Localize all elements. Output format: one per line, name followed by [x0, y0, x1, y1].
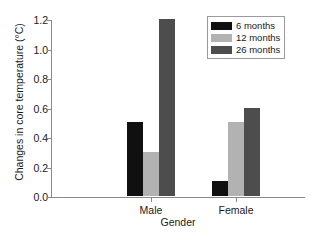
bar — [127, 122, 143, 196]
y-axis-tick-mark — [47, 138, 51, 139]
legend: 6 months12 months26 months — [207, 16, 285, 59]
legend-item: 6 months — [211, 20, 280, 31]
legend-swatch-icon — [211, 46, 232, 54]
bar — [143, 152, 159, 196]
y-axis-tick-labels: 0.00.20.40.60.81.01.2 — [20, 0, 48, 243]
legend-item: 26 months — [211, 44, 280, 55]
legend-item-label: 26 months — [236, 45, 280, 55]
y-axis-tick-mark — [47, 109, 51, 110]
bar — [159, 19, 175, 196]
y-axis-tick-label: 1.2 — [22, 15, 48, 25]
x-axis-tick-mark — [236, 198, 237, 202]
y-axis-tick-mark — [47, 20, 51, 21]
bar — [228, 122, 244, 196]
x-axis-category-label: Male — [116, 204, 186, 216]
bar — [212, 181, 228, 196]
y-axis-tick-label: 0.8 — [22, 74, 48, 84]
y-axis-tick-label: 1.0 — [22, 45, 48, 55]
y-axis-tick-label: 0.4 — [22, 133, 48, 143]
x-axis-category-label: Female — [201, 204, 271, 216]
y-axis-tick-mark — [47, 50, 51, 51]
legend-item-label: 6 months — [236, 21, 275, 31]
y-axis-tick-label: 0.6 — [22, 104, 48, 114]
bar — [244, 108, 260, 197]
y-axis-tick-mark — [47, 168, 51, 169]
y-axis-tick-label: 0.0 — [22, 192, 48, 202]
x-axis-tick-mark — [151, 198, 152, 202]
y-axis-line — [51, 20, 52, 198]
x-axis-line — [51, 197, 305, 198]
y-axis-tick-mark — [47, 79, 51, 80]
legend-swatch-icon — [211, 22, 232, 30]
y-axis-tick-label: 0.2 — [22, 163, 48, 173]
legend-swatch-icon — [211, 34, 232, 42]
bar-chart-figure: Changes in core temperature (°C) 0.00.20… — [0, 0, 311, 243]
y-axis-tick-mark — [47, 197, 51, 198]
legend-item-label: 12 months — [236, 33, 280, 43]
legend-item: 12 months — [211, 32, 280, 43]
x-axis-label: Gender — [51, 216, 305, 228]
